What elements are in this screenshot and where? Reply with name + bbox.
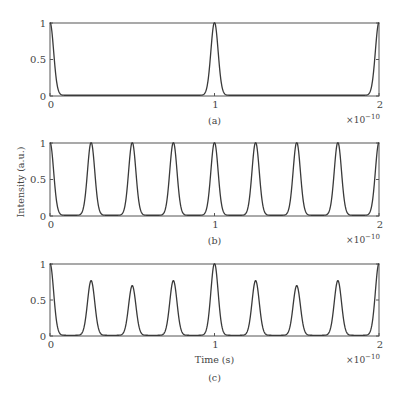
y-tick-label: 0.5 <box>30 295 46 306</box>
peak-point <box>173 142 174 143</box>
intensity-trace-3 <box>50 264 379 335</box>
peak-point <box>378 22 379 23</box>
x-tick-label: 0 <box>48 219 54 230</box>
x-scale-label: ×10−10 <box>346 233 380 245</box>
peak-point <box>91 142 92 143</box>
x-tick-label: 2 <box>377 219 383 230</box>
peak-point <box>49 142 50 143</box>
peak-point <box>255 142 256 143</box>
peak-point <box>214 142 215 143</box>
figure: Intensity (a.u.) 00.51012×10−10(a)00.510… <box>0 0 400 395</box>
y-tick-label: 0 <box>40 331 46 342</box>
y-tick-label: 0 <box>40 91 46 102</box>
x-tick-label: 1 <box>212 99 218 110</box>
x-scale-label: ×10−10 <box>346 113 380 125</box>
y-tick-label: 0.5 <box>30 174 46 185</box>
y-tick-label: 1 <box>40 259 46 270</box>
axes-frame-2 <box>50 143 379 216</box>
x-tick-label: 0 <box>48 339 54 350</box>
peak-point <box>132 286 133 287</box>
x-scale-label: ×10−10 <box>346 353 380 365</box>
x-tick-label: 1 <box>212 339 218 350</box>
x-scale-exponent: −10 <box>365 353 380 361</box>
peak-point <box>49 263 50 264</box>
peak-point <box>378 142 379 143</box>
peak-point <box>91 281 92 282</box>
x-tick-label: 2 <box>377 339 383 350</box>
y-tick-label: 1 <box>40 18 46 29</box>
y-axis-label: Intensity (a.u.) <box>15 147 26 218</box>
panel-label: (c) <box>208 372 221 383</box>
axes-frame-1 <box>50 23 379 96</box>
x-tick-label: 1 <box>212 219 218 230</box>
peak-point <box>296 286 297 287</box>
x-scale-exponent: −10 <box>365 233 380 241</box>
peak-point <box>173 281 174 282</box>
peak-point <box>337 281 338 282</box>
peak-point <box>49 22 50 23</box>
intensity-trace-1 <box>50 23 379 95</box>
panel-label: (b) <box>208 235 222 246</box>
x-scale-exponent: −10 <box>365 113 380 121</box>
y-tick-label: 0.5 <box>30 54 46 65</box>
peak-point <box>337 142 338 143</box>
peak-point <box>214 263 215 264</box>
x-axis-label: Time (s) <box>195 354 234 365</box>
y-tick-label: 0 <box>40 211 46 222</box>
peak-point <box>296 142 297 143</box>
panel-label: (a) <box>208 115 221 126</box>
peak-point <box>132 142 133 143</box>
axes-frame-3 <box>50 264 379 336</box>
intensity-trace-2 <box>50 143 379 215</box>
x-tick-label: 0 <box>48 99 54 110</box>
peak-point <box>255 281 256 282</box>
x-tick-label: 2 <box>377 99 383 110</box>
y-tick-label: 1 <box>40 138 46 149</box>
peak-point <box>378 263 379 264</box>
peak-point <box>214 22 215 23</box>
